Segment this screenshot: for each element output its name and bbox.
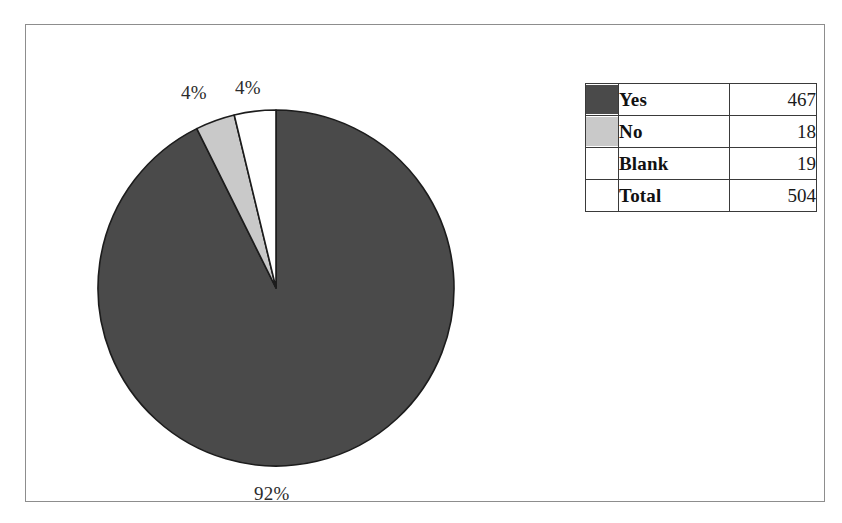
legend-row: Blank19	[586, 148, 817, 180]
legend-value-yes: 467	[730, 84, 817, 116]
pie-chart	[96, 108, 456, 468]
legend-label-total: Total	[619, 180, 730, 212]
slice-label-blank: 4%	[235, 77, 261, 99]
legend-swatch-cell-no	[586, 116, 619, 148]
legend-label-blank: Blank	[619, 148, 730, 180]
legend-value-no: 18	[730, 116, 817, 148]
legend-color-swatch-no	[586, 117, 618, 146]
slice-label-no: 4%	[181, 82, 207, 104]
legend-color-swatch-yes	[586, 85, 618, 114]
pie-svg	[96, 108, 456, 468]
legend-row: Yes467	[586, 84, 817, 116]
pie-slice-group	[98, 110, 454, 466]
legend-row: Total504	[586, 180, 817, 212]
slice-label-yes: 92%	[254, 483, 289, 505]
legend-swatch-cell-blank	[586, 148, 619, 180]
legend-swatch-cell-empty	[586, 180, 619, 212]
legend-table-body: Yes467No18Blank19Total504	[586, 84, 817, 212]
legend-color-swatch-blank	[586, 149, 618, 178]
legend-value-total: 504	[730, 180, 817, 212]
legend-table: Yes467No18Blank19Total504	[585, 83, 817, 212]
legend-label-no: No	[619, 116, 730, 148]
legend-label-yes: Yes	[619, 84, 730, 116]
legend-value-blank: 19	[730, 148, 817, 180]
legend-row: No18	[586, 116, 817, 148]
legend-swatch-cell-yes	[586, 84, 619, 116]
pie-chart-figure: 4% 4% 92% Yes467No18Blank19Total504	[0, 0, 842, 523]
figure-border-frame: 4% 4% 92% Yes467No18Blank19Total504	[25, 24, 825, 502]
